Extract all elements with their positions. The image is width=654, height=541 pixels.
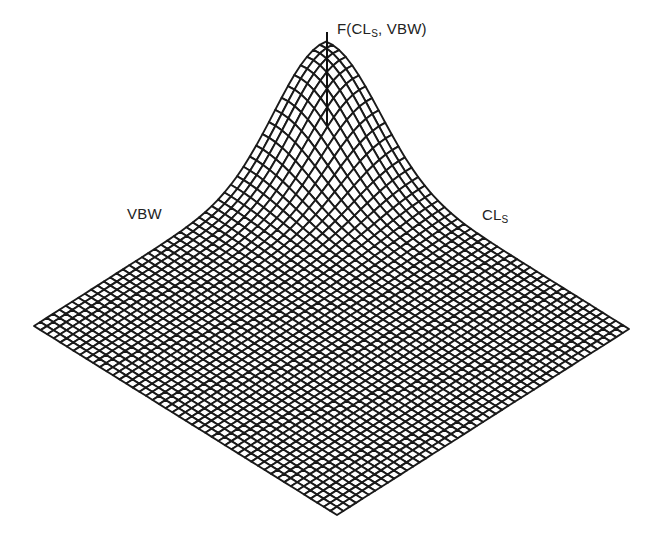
x-axis-label: CLS <box>482 206 508 225</box>
surface-mesh <box>34 42 629 515</box>
z-axis-label: F(CLS, VBW) <box>337 20 427 39</box>
y-axis-label: VBW <box>127 205 162 222</box>
surface-plot <box>0 0 654 541</box>
